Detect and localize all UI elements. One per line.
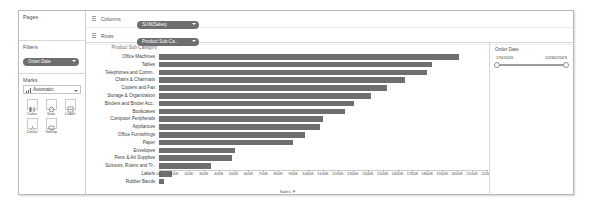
bar[interactable] (159, 148, 235, 154)
range-start-value: 1/5/2020 (496, 55, 513, 60)
bar[interactable] (159, 140, 293, 146)
bar-chart-plot (159, 53, 487, 170)
bar[interactable] (159, 77, 405, 83)
row-label[interactable]: Office Machines (86, 53, 157, 61)
bar-row (159, 108, 487, 116)
bar[interactable] (159, 116, 323, 122)
row-label[interactable]: Computer Peripherals (86, 115, 157, 123)
bar[interactable] (159, 101, 354, 107)
bar-row (159, 147, 487, 155)
x-axis-title: SalesF (86, 189, 489, 194)
bar[interactable] (159, 85, 387, 91)
chevron-down-icon[interactable] (72, 60, 76, 62)
chevron-down-icon[interactable] (192, 40, 196, 42)
x-tick-label: 100K (169, 171, 178, 176)
x-tick-label: 0K (157, 171, 162, 176)
bar[interactable] (159, 62, 432, 68)
row-label[interactable]: Envelopes (86, 147, 157, 155)
bar[interactable] (159, 93, 371, 99)
bar[interactable] (159, 124, 320, 130)
shelf-area: Columns SUM(Sales) Rows Product Sub-Ca.. (86, 11, 573, 43)
x-tick-label: 1000K (302, 171, 314, 176)
x-axis-title-text: Sales (280, 189, 291, 194)
row-label[interactable]: Appliances (86, 123, 157, 131)
tooltip-icon (46, 118, 57, 129)
bar-row (159, 131, 487, 139)
row-header-title: Product Sub-Category (112, 45, 157, 50)
marks-buttons: Color Size (23, 98, 81, 134)
bar[interactable] (159, 70, 427, 76)
filter-pill-label: Order Date (28, 59, 51, 64)
row-label[interactable]: Paper (86, 139, 157, 147)
row-label[interactable]: Chairs & Chairmats (86, 76, 157, 84)
columns-shelf-label: Columns (101, 16, 121, 22)
row-label[interactable]: Rubber Bands (86, 178, 157, 186)
date-range-slider[interactable] (495, 61, 568, 68)
tableau-worksheet-window: Pages Filters Order Date Marks Automatic (18, 10, 574, 195)
x-tick-label: 1500K (377, 171, 389, 176)
bar-row (159, 139, 487, 147)
size-icon (46, 99, 57, 110)
marks-button-tooltip[interactable]: Tooltip (42, 117, 60, 135)
bar[interactable] (159, 163, 211, 169)
pages-card: Pages (19, 11, 85, 41)
bar[interactable] (159, 132, 305, 138)
bar[interactable] (159, 54, 459, 60)
bar-chart-icon (26, 88, 31, 93)
x-tick-label: 1200K (332, 171, 344, 176)
row-label[interactable]: Copiers and Fax (86, 84, 157, 92)
marks-button-color[interactable]: Color (23, 98, 41, 116)
x-tick-label: 1700K (407, 171, 419, 176)
row-label[interactable]: Labels (86, 170, 157, 178)
filter-pill-order-date[interactable]: Order Date (23, 58, 79, 66)
marks-button-label[interactable]: Label (61, 98, 79, 116)
detail-icon (27, 118, 38, 129)
marks-button-size[interactable]: Size (42, 98, 60, 116)
marks-button-detail[interactable]: Detail (23, 117, 41, 135)
row-header: Product Sub-Category Office MachinesTabl… (86, 43, 159, 194)
row-label[interactable]: Pens & Art Supplies (86, 154, 157, 162)
bar[interactable] (159, 155, 232, 161)
order-date-filter-title: Order Date (495, 47, 568, 52)
pill-label: SUM(Sales) (142, 22, 167, 27)
bar-row (159, 92, 487, 100)
grip-icon (92, 33, 96, 39)
row-label[interactable]: Office Furnishings (86, 131, 157, 139)
label-icon (65, 99, 76, 110)
x-tick-label: 200K (184, 171, 193, 176)
columns-shelf[interactable]: Columns SUM(Sales) (86, 11, 573, 28)
chevron-down-icon[interactable] (192, 23, 196, 25)
pages-card-title: Pages (23, 14, 81, 20)
x-tick-label: 900K (289, 171, 298, 176)
filters-card: Filters Order Date (19, 41, 85, 74)
color-palette-icon (27, 99, 38, 110)
x-tick-label: 600K (244, 171, 253, 176)
row-label[interactable]: Binders and Binder Acc.. (86, 100, 157, 108)
x-tick-label: 2000K (451, 171, 463, 176)
slider-handle-left[interactable] (494, 62, 500, 68)
bar-row (159, 115, 487, 123)
x-tick-label: 1100K (317, 171, 328, 176)
slider-handle-right[interactable] (563, 62, 569, 68)
slider-fill (495, 64, 568, 66)
row-label[interactable]: Bookcases (86, 108, 157, 116)
row-label[interactable]: Tables (86, 61, 157, 69)
row-label[interactable]: Storage & Organization (86, 92, 157, 100)
bar[interactable] (159, 109, 345, 115)
x-tick-label: 300K (199, 171, 208, 176)
rows-shelf-label: Rows (101, 33, 114, 39)
bar-row (159, 69, 487, 77)
bar-row (159, 53, 487, 61)
x-tick-label: 1800K (422, 171, 434, 176)
row-label[interactable]: Scissors, Rulers and Tr.. (86, 162, 157, 170)
mark-type-select[interactable]: Automatic (23, 85, 81, 94)
x-tick-label: 700K (259, 171, 268, 176)
chevron-down-icon[interactable] (74, 90, 78, 92)
row-label[interactable]: Telephones and Comm.. (86, 69, 157, 77)
filters-card-title: Filters (23, 44, 81, 50)
bar-row (159, 123, 487, 131)
x-tick-label: 500K (229, 171, 238, 176)
x-tick-label: 800K (274, 171, 283, 176)
marks-card-title: Marks (23, 77, 81, 83)
bar-row (159, 84, 487, 92)
